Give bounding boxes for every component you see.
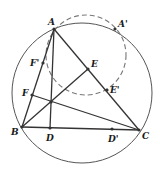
- label-A-prime: A': [117, 19, 128, 29]
- segment-BC: [22, 127, 139, 130]
- point-F-prime: [41, 61, 44, 64]
- point-B: [20, 125, 23, 128]
- label-D-prime: D': [107, 134, 119, 144]
- point-E: [86, 67, 89, 70]
- point-H: [49, 100, 52, 103]
- segments-layer: [22, 29, 139, 130]
- circles-layer: [12, 15, 152, 163]
- segment-CA: [54, 29, 139, 130]
- segment-CF: [32, 95, 139, 130]
- label-F-prime: F': [29, 58, 39, 68]
- point-C: [137, 128, 140, 131]
- label-D: D: [45, 133, 54, 143]
- point-A: [52, 27, 55, 30]
- dashed-circle: [46, 15, 126, 95]
- label-C: C: [142, 131, 150, 141]
- label-B: B: [10, 127, 19, 137]
- geometry-figure: AA'BCDD'EE'FF': [0, 0, 160, 172]
- label-E-prime: E': [109, 85, 120, 95]
- labels-layer: AA'BCDD'EE'FF': [10, 17, 150, 144]
- point-D-prime: [110, 127, 113, 130]
- geometry-diagram: AA'BCDD'EE'FF': [0, 0, 160, 172]
- label-A: A: [47, 17, 55, 27]
- label-F: F: [21, 88, 29, 98]
- points-layer: [20, 27, 140, 131]
- point-A-prime: [113, 27, 116, 30]
- point-E-prime: [105, 88, 108, 91]
- point-F: [30, 93, 33, 96]
- label-E: E: [90, 59, 98, 69]
- point-D: [48, 126, 51, 129]
